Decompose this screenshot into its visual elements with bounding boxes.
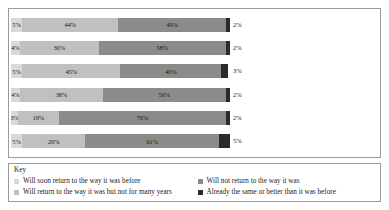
segment-value-label: 45% (66, 68, 77, 75)
bar-segment (226, 41, 230, 55)
category-label-line: Older workers being able to retire (0, 109, 4, 118)
segment-value-label: 3% (233, 64, 242, 78)
bar-segment: 19% (18, 111, 60, 125)
legend-key-box: Key Will soon return to the way it was b… (8, 163, 381, 202)
legend-swatch-icon (14, 179, 19, 184)
segment-value-label: 5% (12, 68, 20, 75)
legend-swatch-icon (14, 190, 19, 195)
segment-value-label: 56% (159, 91, 170, 98)
category-label: The availability of good jobs for goodpa… (0, 86, 4, 103)
bar-row: Older workers being able to retirewhen t… (9, 108, 380, 128)
bar-segment: 58% (99, 41, 226, 55)
bar-row-content: The ability of young people toafford col… (9, 131, 380, 151)
category-label: Older workers being able to retirewhen t… (0, 109, 4, 126)
segment-value-label: 5% (12, 138, 20, 145)
bar-segment (226, 88, 230, 102)
category-label: A low unemployment rate (0, 20, 4, 29)
category-label-line: when they want to (0, 118, 4, 127)
legend-item: Will not return to the way it was (198, 176, 376, 186)
plot-panel: A low unemployment rate5%44%49%2%Workers… (8, 8, 381, 158)
stacked-bar-chart: A low unemployment rate5%44%49%2%Workers… (0, 0, 389, 210)
bar-segment: 29% (22, 134, 86, 148)
bar-segment: 44% (22, 18, 118, 32)
legend-item-label: Will soon return to the way it was befor… (23, 176, 140, 186)
segment-value-label: 44% (64, 21, 75, 28)
bar-row: Workers feeling secure intheir jobs4%36%… (9, 38, 380, 58)
bar-segment (221, 64, 228, 78)
segment-value-label: 5% (12, 21, 20, 28)
bar-segment: 56% (103, 88, 226, 102)
legend-item: Will soon return to the way it was befor… (14, 176, 192, 186)
category-label-line: Workers not having to take jobs (0, 63, 4, 72)
bar-row-content: Workers feeling secure intheir jobs4%36%… (9, 38, 380, 58)
segment-value-label: 38% (56, 91, 67, 98)
segment-value-label: 29% (48, 138, 59, 145)
stacked-bar: 4%38%56% (11, 88, 230, 102)
category-label-line: The availability of good jobs for good (0, 86, 4, 95)
legend-title: Key (14, 166, 375, 175)
category-label-line: The ability of young people to (0, 133, 4, 142)
legend-item-label: Will return to the way it was but not fo… (23, 187, 172, 197)
bar-row-content: Workers not having to take jobsbelow the… (9, 61, 380, 81)
bar-row: A low unemployment rate5%44%49%2% (9, 15, 380, 35)
segment-value-label: 49% (166, 21, 177, 28)
bar-segment: 38% (20, 88, 103, 102)
stacked-bar: 4%36%58% (11, 41, 230, 55)
bar-segment: 61% (85, 134, 219, 148)
bar-rows: A low unemployment rate5%44%49%2%Workers… (9, 9, 380, 157)
segment-value-label: 2% (233, 88, 242, 102)
category-label-line: pay for people who want to work (0, 95, 4, 104)
legend-item-label: Already the same or better than it was b… (207, 187, 336, 197)
segment-value-label: 4% (11, 44, 19, 51)
segment-value-label: 4% (11, 91, 19, 98)
legend-swatch-icon (198, 179, 203, 184)
segment-value-label: 76% (137, 114, 148, 121)
bar-segment (219, 134, 230, 148)
legend-swatch-icon (198, 190, 203, 195)
bar-segment: 4% (11, 41, 20, 55)
segment-value-label: 36% (53, 44, 64, 51)
bar-segment: 36% (20, 41, 99, 55)
category-label-line: Workers feeling secure in (0, 39, 4, 48)
bar-segment: 4% (11, 88, 20, 102)
category-label-line: afford college (0, 141, 4, 150)
segment-value-label: 2% (233, 41, 242, 55)
category-label: Workers feeling secure intheir jobs (0, 39, 4, 56)
bar-segment: 49% (118, 18, 225, 32)
stacked-bar: 5%29%61% (11, 134, 230, 148)
segment-value-label: 46% (165, 68, 176, 75)
bar-row-content: A low unemployment rate5%44%49%2% (9, 15, 380, 35)
stacked-bar: 3%19%76% (11, 111, 230, 125)
bar-segment: 45% (22, 64, 121, 78)
bar-segment: 5% (11, 18, 22, 32)
bar-segment (226, 111, 230, 125)
legend-item: Already the same or better than it was b… (198, 187, 376, 197)
category-label-line: their jobs (0, 48, 4, 57)
bar-segment: 76% (59, 111, 225, 125)
bar-row: Workers not having to take jobsbelow the… (9, 61, 380, 81)
category-label-line: below their skill level (0, 71, 4, 80)
segment-value-label: 61% (147, 138, 158, 145)
bar-row-content: The availability of good jobs for goodpa… (9, 85, 380, 105)
segment-value-label: 2% (233, 18, 242, 32)
stacked-bar: 5%45%46% (11, 64, 230, 78)
legend-item-label: Will not return to the way it was (207, 176, 300, 186)
bar-segment: 5% (11, 134, 22, 148)
category-label: The ability of young people toafford col… (0, 133, 4, 150)
bar-segment: 5% (11, 64, 22, 78)
segment-value-label: 2% (233, 111, 242, 125)
legend-item: Will return to the way it was but not fo… (14, 187, 192, 197)
bar-row-content: Older workers being able to retirewhen t… (9, 108, 380, 128)
category-label-line: A low unemployment rate (0, 20, 4, 29)
bar-row: The ability of young people toafford col… (9, 131, 380, 151)
segment-value-label: 5% (233, 134, 242, 148)
category-label: Workers not having to take jobsbelow the… (0, 63, 4, 80)
bar-segment (226, 18, 230, 32)
legend-items: Will soon return to the way it was befor… (14, 176, 375, 197)
segment-value-label: 58% (156, 44, 167, 51)
segment-value-label: 19% (33, 114, 44, 121)
bar-segment: 46% (120, 64, 221, 78)
bar-row: The availability of good jobs for goodpa… (9, 85, 380, 105)
stacked-bar: 5%44%49% (11, 18, 230, 32)
